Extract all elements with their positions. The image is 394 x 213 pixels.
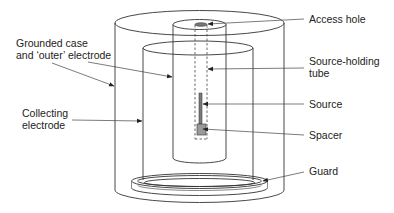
pointer-guard (263, 172, 304, 181)
pointer-lines (52, 19, 304, 181)
pointer-grounded-case-outer (52, 63, 114, 86)
access-hole (195, 23, 207, 27)
spacer-block (197, 124, 206, 135)
label-collecting-line2: electrode (22, 119, 65, 131)
pointer-collecting-electrode (72, 120, 142, 121)
guard-ring (132, 174, 268, 196)
collecting-top-ellipse (143, 41, 253, 55)
guard-outer-bottom (132, 188, 268, 196)
source-rod (199, 93, 202, 124)
pointer-spacer (203, 129, 304, 135)
ionisation-chamber-diagram: Grounded case and ‘outer’ electrode Coll… (0, 0, 394, 213)
pointer-source-holding-tube (208, 68, 304, 69)
label-source-holding-line1: Source-holding (309, 55, 380, 67)
label-access-hole: Access hole (309, 13, 366, 25)
label-collecting-line1: Collecting (22, 107, 68, 119)
pointer-grounded-case-tube (88, 62, 172, 77)
guard-collector-base (145, 179, 255, 187)
label-spacer: Spacer (309, 129, 343, 141)
pointer-access-hole (208, 19, 304, 24)
collecting-electrode-cylinder (143, 41, 253, 180)
tube-bottom-ellipse (173, 158, 226, 163)
label-guard: Guard (309, 165, 338, 177)
label-grounded-case-line2: and ‘outer’ electrode (16, 49, 111, 61)
label-grounded-case-line1: Grounded case (16, 37, 88, 49)
label-source: Source (309, 98, 342, 110)
label-source-holding-line2: tube (309, 67, 330, 79)
guard-inner-bottom (138, 185, 262, 191)
